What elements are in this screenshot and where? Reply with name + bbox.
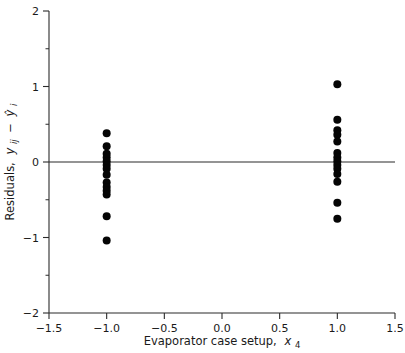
data-point (333, 178, 341, 186)
data-point (103, 150, 111, 158)
y-axis-title-variable: y (3, 148, 17, 156)
residual-scatter-figure: −2−1012 −1.5−1.0−0.50.00.51.01.5 Evapora… (0, 0, 405, 353)
svg-text:Residuals, y i: Residuals, y ij − ŷ i (3, 103, 20, 221)
data-point (333, 199, 341, 207)
x-tick-label: −1.0 (93, 322, 120, 335)
y-tick-label: 1 (32, 81, 39, 94)
y-tick-label: −2 (23, 307, 39, 320)
y-axis-title-subscript-2: i (9, 103, 19, 106)
y-axis-title-minus: − (3, 123, 17, 133)
y-axis-title-subscript: ij (9, 139, 19, 144)
x-axis-title: Evaporator case setup, x 4 (144, 334, 301, 350)
data-point (333, 170, 341, 178)
data-point (333, 80, 341, 88)
y-tick-label: 2 (32, 5, 39, 18)
data-point (103, 171, 111, 179)
x-tick-label: 1.5 (386, 322, 404, 335)
y-axis-title-variable-2: ŷ (3, 109, 17, 117)
y-axis-ticks (43, 11, 49, 313)
data-point (103, 237, 111, 245)
y-tick-label: 0 (32, 156, 39, 169)
x-tick-label: 1.0 (329, 322, 347, 335)
data-point (103, 129, 111, 137)
y-axis-title: Residuals, y ij − ŷ i (3, 103, 20, 221)
y-axis-tick-labels: −2−1012 (23, 5, 39, 320)
data-point (333, 116, 341, 124)
x-tick-label: −1.5 (36, 322, 63, 335)
data-series-left (103, 129, 111, 244)
data-point (103, 142, 111, 150)
data-series-right (333, 80, 341, 222)
data-point (333, 138, 341, 146)
svg-text:Evaporator case setup,: Evaporator case setup, x 4 (144, 334, 301, 350)
x-axis-title-variable: x (283, 334, 291, 348)
x-axis-title-subscript: 4 (295, 340, 300, 350)
x-axis-title-text: Evaporator case setup, (144, 334, 277, 348)
y-axis-title-text: Residuals, (3, 162, 17, 220)
y-tick-label: −1 (23, 232, 39, 245)
data-point (103, 190, 111, 198)
x-axis-ticks (49, 313, 395, 319)
data-point (103, 212, 111, 220)
data-point (333, 215, 341, 223)
scatter-plot-canvas: −2−1012 −1.5−1.0−0.50.00.51.01.5 Evapora… (0, 0, 405, 353)
